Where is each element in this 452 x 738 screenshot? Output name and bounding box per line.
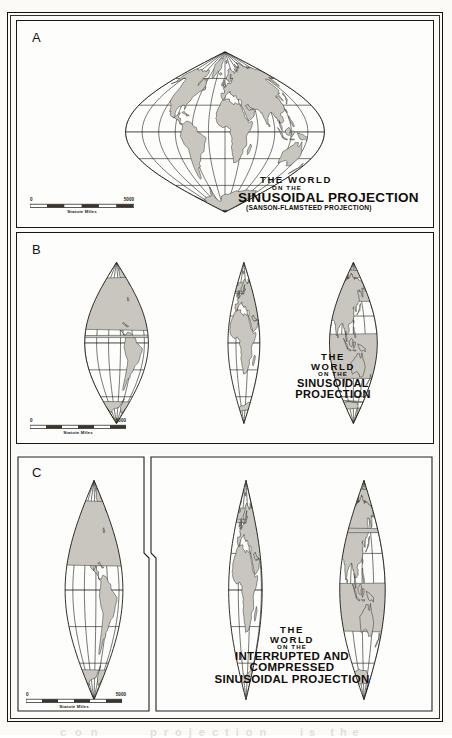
panel-b-scale-max: 5000: [116, 418, 126, 423]
panel-c-scale-caption: Statute Miles: [26, 704, 122, 709]
panel-a-title-line1: THE WORLD: [238, 175, 438, 185]
panel-c-scale-max: 5000: [116, 692, 126, 697]
panel-c-title: THE WORLD ON THE INTERRUPTED AND COMPRES…: [192, 625, 392, 686]
ghost-text-9: is the: [300, 726, 365, 738]
panel-b-title-line5: PROJECTION: [268, 389, 398, 400]
panel-b-map: [17, 233, 433, 443]
panel-b-scale-caption: Statute Miles: [30, 430, 126, 435]
panel-label-a: A: [32, 30, 41, 45]
ghost-text-8: projection: [150, 726, 273, 738]
panel-b-interrupted: [16, 232, 434, 444]
panel-a-title: THE WORLD ON THE SINUSOIDAL PROJECTION (…: [238, 175, 438, 211]
panel-b-title: THE WORLD ON THE SINUSOIDAL PROJECTION: [268, 352, 398, 400]
panel-a-title-line4: (SANSON-FLAMSTEED PROJECTION): [238, 205, 438, 212]
panel-a-scale-caption: Statute Miles: [30, 209, 134, 214]
panel-c-title-line6: SINUSOIDAL PROJECTION: [192, 674, 392, 686]
panel-b-scale-zero: 0: [30, 418, 33, 423]
panel-c-scale-zero: 0: [26, 692, 29, 697]
panel-b-scalebar: 0 5000 Statute Miles: [30, 419, 126, 435]
ghost-text-7: con: [60, 726, 107, 738]
panel-a-scale-zero: 0: [30, 197, 33, 202]
panel-label-c: C: [32, 465, 42, 480]
panel-a-scalebar: 0 5000 Statute Miles: [30, 198, 134, 214]
panel-c-scalebar: 0 5000 Statute Miles: [26, 693, 122, 709]
panel-label-b: B: [32, 242, 41, 257]
panel-a-scale-max: 5000: [124, 197, 134, 202]
panel-a-title-line3: SINUSOIDAL PROJECTION: [238, 191, 438, 205]
